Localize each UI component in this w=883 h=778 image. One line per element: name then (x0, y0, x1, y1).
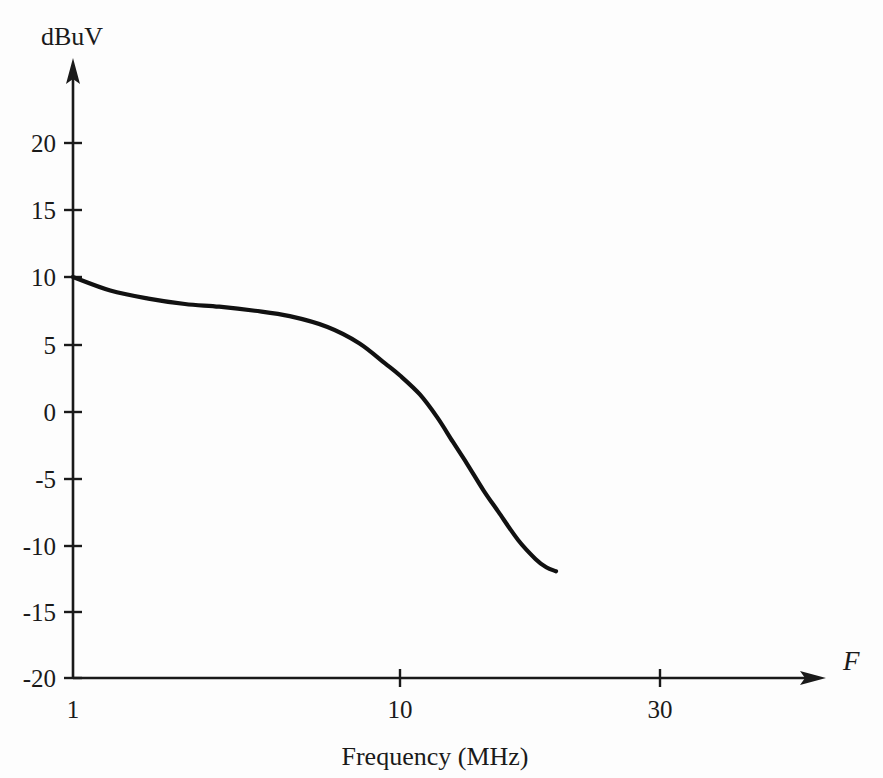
y-tick-label-10: 10 (31, 264, 56, 291)
frequency-response-chart: 20 15 10 5 0 -5 -10 -15 -20 1 10 30 dBuV… (0, 0, 883, 778)
y-tick-label-minus10: -10 (23, 533, 56, 560)
y-tick-label-minus5: -5 (35, 466, 56, 493)
y-axis-title: dBuV (41, 22, 103, 51)
y-tick-label-5: 5 (44, 332, 57, 359)
x-axis-symbol-label: F (842, 646, 860, 676)
chart-background (0, 0, 883, 778)
x-tick-label-1: 1 (67, 696, 80, 723)
x-axis-title: Frequency (MHz) (342, 742, 529, 771)
y-tick-label-minus20: -20 (23, 665, 56, 692)
y-tick-label-20: 20 (31, 130, 56, 157)
y-tick-label-minus15: -15 (23, 599, 56, 626)
chart-page: 20 15 10 5 0 -5 -10 -15 -20 1 10 30 dBuV… (0, 0, 883, 778)
y-tick-label-15: 15 (31, 197, 56, 224)
x-tick-label-30: 30 (648, 696, 673, 723)
y-tick-label-0: 0 (44, 399, 57, 426)
x-tick-label-10: 10 (388, 696, 413, 723)
